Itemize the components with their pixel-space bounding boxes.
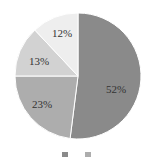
pie-slices <box>15 13 141 139</box>
slice-label: 13% <box>29 55 49 67</box>
pie-slice <box>70 13 141 139</box>
legend-item <box>85 150 94 157</box>
legend-swatch <box>85 152 91 157</box>
slice-label: 23% <box>32 98 52 110</box>
legend-swatch <box>62 152 68 157</box>
legend-item <box>62 150 71 157</box>
pie-chart: 52%23%13%12% <box>0 0 156 150</box>
chart-legend <box>0 150 156 157</box>
slice-label: 12% <box>52 27 72 39</box>
slice-label: 52% <box>106 83 126 95</box>
